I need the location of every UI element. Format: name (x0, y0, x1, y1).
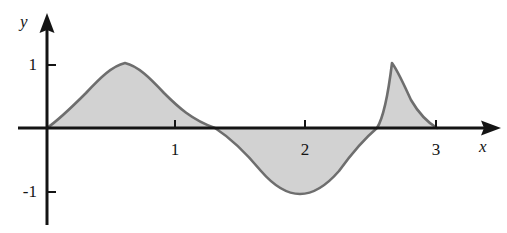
x-axis-label: x (479, 138, 487, 155)
y-axis-label: y (20, 13, 28, 30)
sine-curve-figure: y x 1 -1 1 2 3 (0, 0, 507, 233)
x-axis-arrow-icon (481, 121, 501, 136)
y-tick-label-1: 1 (19, 56, 37, 73)
x-tick-label-2: 2 (291, 141, 319, 158)
plot-canvas (0, 0, 507, 233)
x-tick-label-1: 1 (161, 141, 189, 158)
y-axis-arrow-icon (40, 13, 55, 33)
y-axis (40, 13, 55, 225)
shaded-area-trough (215, 128, 377, 194)
x-tick-label-3: 3 (422, 141, 450, 158)
shaded-area-first-hump (47, 63, 215, 128)
y-tick-label-neg-1: -1 (11, 183, 37, 200)
